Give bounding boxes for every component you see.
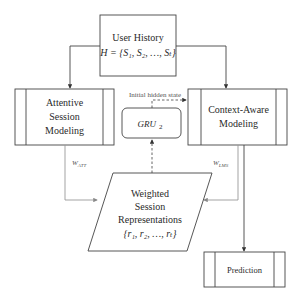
user-history-formula: H = {S₁, S₂, …, Sₜ} bbox=[99, 47, 175, 58]
attentive-session-modeling-node: Attentive Session Modeling bbox=[15, 89, 114, 145]
initial-hidden-state-label: Initial hidden state bbox=[129, 91, 181, 99]
weighted-line1: Weighted bbox=[131, 188, 169, 199]
w-lms-label: WLMS bbox=[213, 159, 229, 168]
context-aware-modeling-node: Context-Aware Modeling bbox=[188, 89, 287, 145]
attentive-line3: Modeling bbox=[45, 125, 84, 136]
attentive-line1: Attentive bbox=[46, 97, 84, 108]
context-line2: Modeling bbox=[219, 118, 258, 129]
weighted-line2: Session bbox=[135, 201, 166, 212]
gru-node: GRU2 bbox=[122, 108, 181, 138]
w-att-label: WATT bbox=[72, 159, 87, 168]
architecture-diagram: User History H = {S₁, S₂, …, Sₜ} Attenti… bbox=[0, 0, 299, 297]
attentive-line2: Session bbox=[49, 111, 80, 122]
user-history-node: User History H = {S₁, S₂, …, Sₜ} bbox=[99, 15, 176, 76]
edge-history-to-attentive bbox=[70, 46, 100, 88]
edge-initial-hidden-state: Initial hidden state bbox=[129, 91, 186, 108]
user-history-title: User History bbox=[112, 32, 163, 43]
weighted-line3: Representations bbox=[118, 214, 182, 225]
weighted-formula: {r₁, r₂, …, rₜ} bbox=[124, 228, 177, 239]
weighted-session-representations-node: Weighted Session Representations {r₁, r₂… bbox=[88, 173, 212, 251]
edge-context-to-weighted: WLMS bbox=[204, 145, 238, 200]
prediction-label: Prediction bbox=[227, 265, 263, 275]
prediction-node: Prediction bbox=[204, 252, 285, 287]
context-line1: Context-Aware bbox=[208, 104, 269, 115]
edge-history-to-context bbox=[176, 46, 226, 88]
edge-attentive-to-weighted: WATT bbox=[65, 145, 97, 200]
